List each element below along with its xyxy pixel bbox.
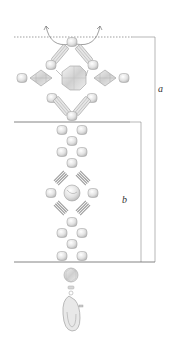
bottom-round-bead [67, 112, 77, 121]
left-bicone [30, 70, 52, 86]
clasp-assembly [63, 268, 83, 331]
dimension-label-b: b [122, 195, 127, 205]
spacer [68, 286, 74, 289]
middle-chain [57, 126, 87, 168]
middle-center-bead [64, 185, 80, 201]
right-thread-arrow [76, 26, 100, 45]
jump-ring [69, 291, 73, 295]
left-end-bead [17, 74, 27, 83]
top-round-bead [67, 38, 77, 47]
central-crystal [62, 66, 86, 90]
left-upper-bead [46, 61, 56, 70]
top-motif [17, 38, 129, 121]
diagram-canvas: a b [0, 0, 170, 347]
dimension-label-a: a [158, 84, 163, 94]
right-upper-bead [88, 61, 98, 70]
left-thread-arrow [46, 26, 70, 45]
right-bicone [94, 70, 116, 86]
beadwork-diagram [0, 0, 170, 347]
lobster-clasp [63, 296, 83, 331]
lower-chain [57, 229, 87, 261]
middle-motif [46, 171, 98, 227]
right-end-bead [119, 74, 129, 83]
faceted-round-bead [64, 268, 78, 282]
